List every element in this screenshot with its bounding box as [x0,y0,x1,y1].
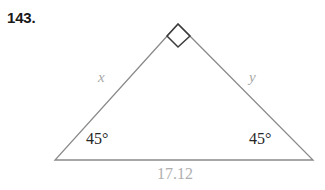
angle-label-right: 45° [249,131,271,147]
problem-figure-page: 143. x y 45° 45° 17.12 [0,0,325,190]
triangle-figure [0,0,325,190]
side-label-x: x [98,70,105,85]
base-length-label: 17.12 [157,166,193,182]
side-label-y: y [249,70,256,85]
right-angle-mark-icon [167,24,190,47]
angle-label-left: 45° [86,131,108,147]
